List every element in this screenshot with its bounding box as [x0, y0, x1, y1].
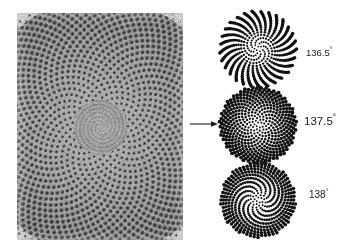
angle-value: 137.5 [304, 115, 333, 127]
sunflower-photograph [17, 13, 183, 240]
right-arrow-icon [190, 117, 218, 131]
degree-symbol: ° [333, 113, 336, 122]
spiral-pattern-138 [216, 158, 300, 242]
spiral-pattern-canvas [216, 83, 300, 167]
angle-label-138: 138° [309, 188, 329, 200]
spiral-pattern-canvas [216, 158, 300, 242]
sunflower-photograph-image [17, 13, 183, 240]
angle-value: 138 [309, 189, 326, 200]
angle-value: 136.5 [306, 47, 330, 58]
angle-label-137-5: 137.5° [304, 114, 336, 127]
spiral-pattern-canvas [216, 7, 300, 91]
angle-label-136-5: 136.5° [306, 47, 333, 58]
degree-symbol: ° [326, 187, 329, 196]
degree-symbol: ° [330, 46, 333, 53]
spiral-pattern-136-5 [216, 7, 300, 91]
spiral-pattern-137-5 [216, 83, 300, 167]
